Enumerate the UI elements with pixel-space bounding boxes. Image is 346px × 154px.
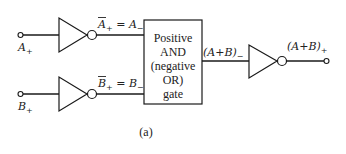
output-inverter-bubble bbox=[278, 57, 287, 66]
gate-box-line-1: Positive bbox=[154, 31, 193, 45]
output-terminal bbox=[324, 59, 329, 64]
gate-box-line-5: gate bbox=[163, 87, 183, 101]
final-output-label: (A+B)+ bbox=[287, 40, 328, 55]
gate-box-line-4: OR) bbox=[163, 73, 184, 87]
inverter-a bbox=[59, 18, 87, 52]
inverter-a-bubble bbox=[88, 31, 97, 40]
figure-caption: (a) bbox=[139, 125, 152, 139]
gate-box-line-2: AND bbox=[160, 45, 186, 59]
inverter-a-output-label: A+ = A− bbox=[97, 18, 144, 33]
output-inverter bbox=[249, 45, 277, 78]
gate-box-line-3: (negative bbox=[151, 59, 196, 73]
input-b-label: B+ bbox=[17, 100, 33, 115]
input-a-terminal bbox=[18, 33, 23, 38]
input-a-label: A+ bbox=[17, 41, 33, 56]
inverter-b bbox=[59, 77, 87, 111]
input-b-terminal bbox=[18, 92, 23, 97]
inverter-b-output-label: B+ = B− bbox=[97, 77, 144, 92]
inverter-b-bubble bbox=[88, 90, 97, 99]
gate-output-label: (A+B)− bbox=[203, 46, 244, 61]
logic-diagram: Positive AND (negative OR) gate A+ B+ A+… bbox=[0, 0, 346, 154]
